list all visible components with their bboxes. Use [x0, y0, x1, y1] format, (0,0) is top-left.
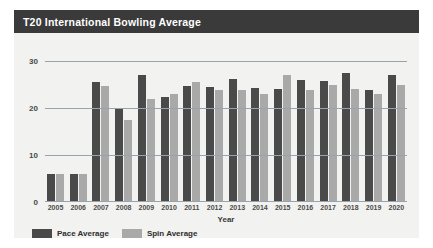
gridline-30 — [45, 61, 407, 62]
bar-group[interactable] — [297, 52, 314, 202]
chart-card: T20 International Bowling Average 010203… — [14, 10, 419, 238]
x-axis-title: Year — [45, 215, 407, 224]
bar-group[interactable] — [365, 52, 382, 202]
bar[interactable] — [397, 85, 405, 202]
page-title: T20 International Bowling Average — [14, 16, 201, 28]
x-axis-tick: 2005 — [47, 204, 64, 211]
bar[interactable] — [70, 174, 78, 202]
bar[interactable] — [161, 97, 169, 202]
bar[interactable] — [365, 90, 373, 203]
bar[interactable] — [170, 94, 178, 202]
x-axis-tick: 2013 — [229, 204, 246, 211]
legend-swatch-pace — [32, 229, 52, 238]
bar[interactable] — [329, 85, 337, 202]
bar[interactable] — [388, 75, 396, 202]
bar[interactable] — [260, 94, 268, 202]
bar-group[interactable] — [70, 52, 87, 202]
bar-group[interactable] — [183, 52, 200, 202]
bar-group[interactable] — [342, 52, 359, 202]
legend-label-spin: Spin Average — [147, 229, 198, 238]
x-axis-tick: 2007 — [92, 204, 109, 211]
x-axis-labels: 2005200620072008200920102011201220132014… — [45, 204, 407, 211]
bar-group[interactable] — [206, 52, 223, 202]
y-axis-tick-20: 20 — [29, 104, 38, 113]
legend-item-spin[interactable]: Spin Average — [122, 229, 198, 238]
x-axis-tick: 2011 — [183, 204, 200, 211]
bar[interactable] — [320, 81, 328, 202]
bar[interactable] — [56, 174, 64, 202]
x-axis-tick: 2008 — [115, 204, 132, 211]
gridline-20 — [45, 108, 407, 109]
chart-title-bar: T20 International Bowling Average — [14, 10, 419, 33]
bar[interactable] — [374, 94, 382, 202]
bar[interactable] — [351, 89, 359, 202]
bar-group[interactable] — [229, 52, 246, 202]
bar-group[interactable] — [92, 52, 109, 202]
bar-groups — [45, 52, 407, 202]
bar[interactable] — [183, 86, 191, 202]
y-axis-tick-30: 30 — [29, 57, 38, 66]
x-axis-tick: 2018 — [342, 204, 359, 211]
bar[interactable] — [79, 174, 87, 202]
bar[interactable] — [206, 87, 214, 202]
bar-group[interactable] — [161, 52, 178, 202]
x-axis-tick: 2015 — [274, 204, 291, 211]
bar[interactable] — [283, 75, 291, 202]
bar[interactable] — [274, 89, 282, 202]
bar[interactable] — [92, 82, 100, 202]
legend-label-pace: Pace Average — [57, 229, 109, 238]
bar[interactable] — [138, 75, 146, 202]
bar-group[interactable] — [320, 52, 337, 202]
bar[interactable] — [342, 73, 350, 202]
plot-canvas — [45, 52, 407, 202]
bar-group[interactable] — [274, 52, 291, 202]
bar[interactable] — [215, 90, 223, 202]
x-axis-tick: 2020 — [388, 204, 405, 211]
bar[interactable] — [306, 90, 314, 202]
bar[interactable] — [47, 174, 55, 202]
bar[interactable] — [147, 99, 155, 202]
bar[interactable] — [124, 120, 132, 202]
legend-swatch-spin — [122, 229, 142, 238]
x-axis-tick: 2014 — [251, 204, 268, 211]
bar-group[interactable] — [115, 52, 132, 202]
y-axis-labels: 0102030 — [14, 52, 42, 202]
bar[interactable] — [238, 90, 246, 203]
bar-group[interactable] — [251, 52, 268, 202]
bar[interactable] — [229, 79, 237, 202]
x-axis-tick: 2017 — [320, 204, 337, 211]
legend-item-pace[interactable]: Pace Average — [32, 229, 109, 238]
bar-group[interactable] — [47, 52, 64, 202]
bar[interactable] — [101, 86, 109, 202]
bar[interactable] — [251, 88, 259, 202]
bar[interactable] — [297, 80, 305, 202]
bar[interactable] — [192, 82, 200, 202]
y-axis-tick-10: 10 — [29, 151, 38, 160]
bar-group[interactable] — [138, 52, 155, 202]
y-axis-tick-0: 0 — [34, 198, 38, 207]
x-axis-line — [45, 201, 407, 202]
chart-legend: Pace AverageSpin Average — [32, 229, 197, 238]
x-axis-tick: 2019 — [365, 204, 382, 211]
bar-group[interactable] — [388, 52, 405, 202]
x-axis-tick: 2006 — [70, 204, 87, 211]
x-axis-tick: 2012 — [206, 204, 223, 211]
x-axis-tick: 2009 — [138, 204, 155, 211]
gridline-10 — [45, 155, 407, 156]
plot-area: 0102030 20052006200720082009201020112012… — [14, 33, 419, 238]
x-axis-tick: 2016 — [297, 204, 314, 211]
x-axis-tick: 2010 — [161, 204, 178, 211]
